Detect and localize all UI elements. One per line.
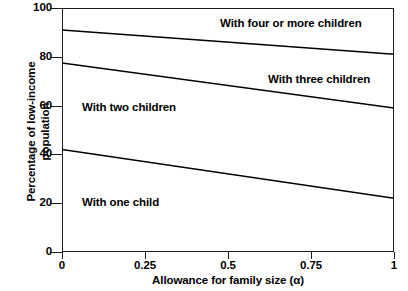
x-tick-0.25: [145, 252, 146, 259]
x-tick-label-0.5: 0.5: [220, 259, 236, 271]
line-one-child: [62, 150, 394, 199]
y-tick-label-100: 100: [33, 1, 52, 13]
line-four-or-more-children: [62, 30, 394, 54]
y-axis-label-line2: population: [38, 32, 52, 232]
x-tick-1: [394, 252, 395, 259]
x-axis-label: Allowance for family size (α): [62, 274, 394, 286]
y-tick-label-0: 0: [46, 245, 52, 257]
x-tick-0.5: [228, 252, 229, 259]
x-tick-label-0.75: 0.75: [300, 259, 322, 271]
annotation-two-children: With two children: [82, 101, 176, 113]
annotation-one-child: With one child: [82, 196, 159, 208]
y-axis-label: Percentage of low-income population: [25, 32, 52, 232]
annotation-three-children: With three children: [268, 73, 370, 85]
x-tick-label-1: 1: [391, 259, 397, 271]
x-tick-0: [62, 252, 63, 259]
data-lines: [62, 8, 394, 252]
x-tick-0.75: [311, 252, 312, 259]
x-tick-label-0: 0: [59, 259, 65, 271]
annotation-four-or-more-children: With four or more children: [220, 17, 362, 29]
chart-figure: 100 80 60 40 20 0 Percentage of low-inco…: [0, 0, 408, 291]
x-tick-label-0.25: 0.25: [134, 259, 156, 271]
y-axis-label-line1: Percentage of low-income: [25, 32, 39, 232]
